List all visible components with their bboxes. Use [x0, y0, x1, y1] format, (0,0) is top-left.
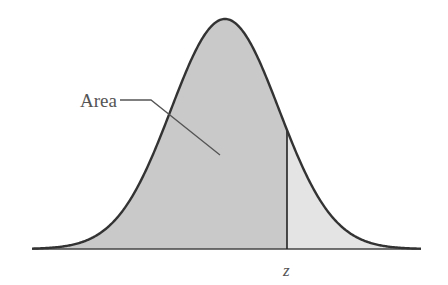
normal-distribution-diagram: Area z: [0, 0, 448, 285]
area-label: Area: [80, 90, 117, 111]
z-label: z: [282, 261, 290, 280]
tail-area-right-of-z: [287, 130, 421, 249]
shaded-area-left-of-z: [32, 19, 287, 249]
